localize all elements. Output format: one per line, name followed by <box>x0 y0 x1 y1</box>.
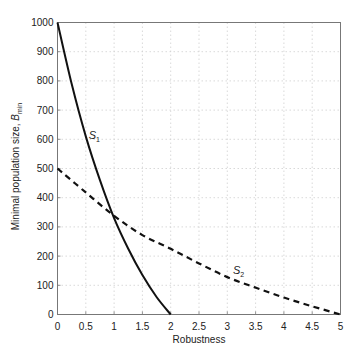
x-tick-label: 5 <box>338 321 344 332</box>
series-label-s1: S1 <box>89 129 100 143</box>
series-label-s2: S2 <box>233 264 244 278</box>
x-tick-label: 0.5 <box>79 321 93 332</box>
x-tick-label: 4.5 <box>305 321 319 332</box>
y-tick-label: 1000 <box>31 17 54 28</box>
chart-container: 00.511.522.533.544.550100200300400500600… <box>0 0 360 361</box>
x-tick-label: 1 <box>111 321 117 332</box>
series-labels: S1S2 <box>89 129 245 277</box>
y-tick-label: 0 <box>48 309 54 320</box>
y-tick-label: 700 <box>37 105 54 116</box>
y-tick-label: 200 <box>37 251 54 262</box>
x-axis-label: Robustness <box>173 334 226 345</box>
y-tick-label: 900 <box>37 46 54 57</box>
grid-lines <box>58 23 341 315</box>
x-tick-label: 3.5 <box>249 321 263 332</box>
y-tick-label: 600 <box>37 134 54 145</box>
series-line-s2 <box>58 169 341 315</box>
y-axis-label: Minimal population size, Bmin <box>10 103 23 231</box>
x-tick-label: 2 <box>168 321 174 332</box>
x-tick-label: 0 <box>55 321 61 332</box>
y-tick-label: 800 <box>37 75 54 86</box>
y-tick-label: 100 <box>37 280 54 291</box>
x-tick-label: 1.5 <box>135 321 149 332</box>
x-tick-label: 3 <box>225 321 231 332</box>
y-tick-label: 500 <box>37 163 54 174</box>
axis-ticks: 00.511.522.533.544.550100200300400500600… <box>31 17 343 332</box>
line-chart: 00.511.522.533.544.550100200300400500600… <box>0 0 360 361</box>
x-tick-label: 2.5 <box>192 321 206 332</box>
x-tick-label: 4 <box>281 321 287 332</box>
y-tick-label: 400 <box>37 192 54 203</box>
y-tick-label: 300 <box>37 221 54 232</box>
